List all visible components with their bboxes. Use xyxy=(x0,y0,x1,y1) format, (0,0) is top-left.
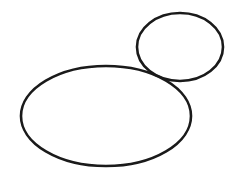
large-ellipse-shape xyxy=(21,66,191,166)
small-circle-shape xyxy=(137,13,223,81)
sketch-canvas xyxy=(0,0,237,176)
